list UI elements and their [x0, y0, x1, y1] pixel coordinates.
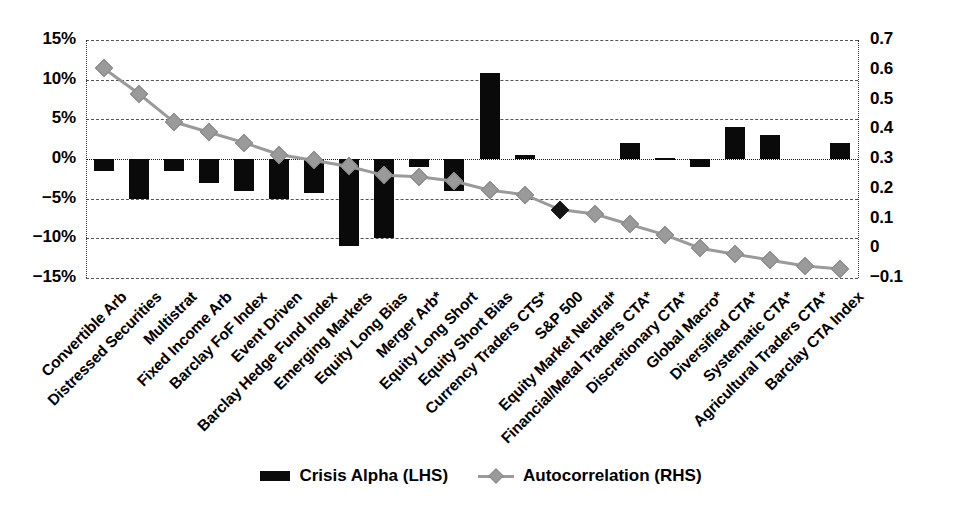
left-axis-tick: −5%: [42, 188, 76, 208]
left-axis-tick: 0%: [52, 148, 76, 168]
chart-legend: Crisis Alpha (LHS)Autocorrelation (RHS): [0, 466, 962, 486]
right-axis-tick: 0.1: [870, 208, 893, 228]
legend-item: Crisis Alpha (LHS): [260, 466, 448, 486]
left-axis-tick: −15%: [33, 267, 76, 287]
legend-item: Autocorrelation (RHS): [478, 466, 702, 486]
right-axis-tick: 0.5: [870, 89, 893, 109]
right-axis-tick: 0.7: [870, 29, 893, 49]
left-axis-tick: −10%: [33, 227, 76, 247]
legend-bar-swatch: [260, 471, 290, 481]
left-axis-tick: 15%: [43, 29, 76, 49]
left-axis-tick: 10%: [43, 69, 76, 89]
gridline: [86, 278, 858, 279]
right-axis-tick: 0.2: [870, 178, 893, 198]
legend-label: Crisis Alpha (LHS): [299, 466, 448, 486]
legend-label: Autocorrelation (RHS): [523, 466, 702, 486]
right-axis-tick: 0.4: [870, 118, 893, 138]
plot-area: [86, 40, 858, 278]
legend-line-swatch: [478, 470, 514, 482]
right-axis-tick: −0.1: [870, 267, 903, 287]
crisis-alpha-autocorrelation-chart: 15%10%5%0%−5%−10%−15% 0.70.60.50.40.30.2…: [0, 0, 962, 520]
right-axis-tick: 0.6: [870, 59, 893, 79]
right-axis-line: [858, 40, 859, 278]
right-axis-tick: 0.3: [870, 148, 893, 168]
left-axis-tick: 5%: [52, 108, 76, 128]
right-axis-tick: 0: [870, 237, 879, 257]
line-series-autocorrelation: [86, 40, 858, 278]
